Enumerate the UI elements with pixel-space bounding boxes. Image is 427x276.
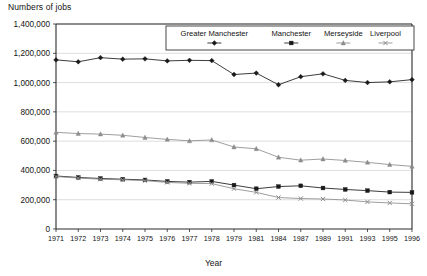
data-point-marker [187, 58, 192, 63]
x-tick-label: 1984 [271, 234, 287, 243]
data-point-marker [54, 57, 59, 62]
x-tick-label: 1972 [70, 234, 86, 243]
x-axis-ticks: 1971197219731974197519761977197819791981… [48, 229, 420, 243]
legend-label: Greater Manchester [181, 29, 249, 38]
data-point-marker [299, 184, 303, 188]
data-point-marker [387, 79, 392, 84]
axis-lines [56, 24, 412, 229]
data-point-marker [298, 74, 303, 79]
x-tick-label: 1995 [382, 234, 398, 243]
y-tick-label: 600,000 [20, 137, 50, 146]
y-tick-label: 1,400,000 [14, 20, 51, 29]
data-point-marker [289, 41, 293, 45]
y-tick-label: 0 [45, 225, 50, 234]
y-tick-label: 1,000,000 [14, 79, 51, 88]
data-point-marker [143, 56, 148, 61]
x-tick-label: 1971 [48, 234, 64, 243]
series-merseyside [54, 130, 414, 168]
x-tick-label: 1987 [293, 234, 309, 243]
x-tick-label: 1991 [337, 234, 353, 243]
x-tick-label: 1981 [248, 234, 264, 243]
x-tick-label: 1976 [159, 234, 175, 243]
data-point-marker [343, 78, 348, 83]
data-point-marker [276, 82, 281, 87]
y-tick-label: 800,000 [20, 108, 50, 117]
x-tick-label: 1989 [315, 234, 331, 243]
data-point-marker [254, 71, 259, 76]
chart-plot-area: 0200,000400,000600,000800,0001,000,0001,… [0, 0, 427, 276]
y-tick-label: 200,000 [20, 196, 50, 205]
y-tick-label: 1,200,000 [14, 49, 51, 58]
data-point-marker [321, 186, 325, 190]
x-tick-label: 1979 [226, 234, 242, 243]
data-point-marker [254, 187, 258, 191]
data-point-marker [321, 71, 326, 76]
x-tick-label: 1978 [204, 234, 220, 243]
data-point-marker [232, 183, 236, 187]
legend-label: Liverpool [370, 29, 401, 38]
series-line [56, 58, 412, 85]
data-point-marker [209, 58, 214, 63]
legend-label: Manchester [271, 29, 311, 38]
data-point-marker [76, 59, 81, 64]
x-tick-label: 1975 [137, 234, 153, 243]
data-point-marker [410, 77, 415, 82]
data-point-marker [388, 190, 392, 194]
y-axis-ticks: 0200,000400,000600,000800,0001,000,0001,… [14, 20, 56, 234]
data-point-marker [365, 80, 370, 85]
data-point-marker [165, 59, 170, 64]
data-point-marker [343, 188, 347, 192]
x-tick-label: 1996 [404, 234, 420, 243]
chart-legend: Greater ManchesterManchesterMerseysideLi… [166, 26, 414, 50]
data-point-marker [410, 190, 414, 194]
data-point-marker [98, 55, 103, 60]
series-line [56, 132, 412, 166]
data-point-marker [120, 57, 125, 62]
jobs-line-chart: Numbers of jobs 0200,000400,000600,00080… [0, 0, 427, 276]
data-point-marker [366, 189, 370, 193]
x-tick-label: 1977 [182, 234, 198, 243]
x-tick-label: 1993 [360, 234, 376, 243]
data-point-marker [232, 72, 237, 77]
data-point-marker [277, 185, 281, 189]
data-series-group [54, 55, 415, 206]
legend-label: Merseyside [324, 29, 363, 38]
x-axis-title: Year [0, 258, 427, 268]
y-tick-label: 400,000 [20, 166, 50, 175]
x-tick-label: 1973 [93, 234, 109, 243]
x-tick-label: 1974 [115, 234, 131, 243]
series-manchester [54, 174, 414, 194]
